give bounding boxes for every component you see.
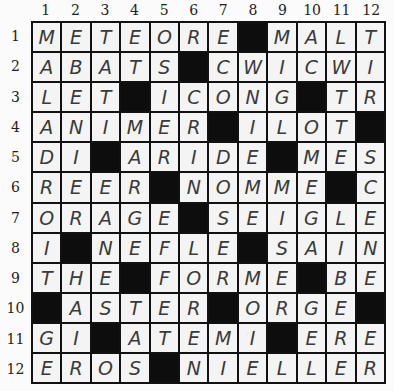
letter-cell[interactable]: I [62, 324, 89, 352]
letter-cell[interactable]: M [209, 324, 236, 352]
letter-cell[interactable]: E [209, 23, 236, 51]
letter-cell[interactable]: L [268, 354, 295, 382]
letter-cell[interactable]: A [121, 324, 148, 352]
letter-cell[interactable]: N [239, 83, 266, 111]
letter-cell[interactable]: S [92, 294, 119, 322]
letter-cell[interactable]: I [92, 113, 119, 141]
letter-cell[interactable]: R [180, 113, 207, 141]
letter-cell[interactable]: R [33, 173, 60, 201]
letter-cell[interactable]: L [327, 204, 354, 232]
letter-cell[interactable]: N [180, 354, 207, 382]
letter-cell[interactable]: O [209, 83, 236, 111]
letter-cell[interactable]: A [298, 234, 325, 262]
letter-cell[interactable]: T [121, 294, 148, 322]
letter-cell[interactable]: G [298, 204, 325, 232]
letter-cell[interactable]: T [327, 83, 354, 111]
letter-cell[interactable]: T [327, 113, 354, 141]
letter-cell[interactable]: S [209, 204, 236, 232]
letter-cell[interactable]: M [33, 23, 60, 51]
letter-cell[interactable]: S [151, 53, 178, 81]
letter-cell[interactable]: I [268, 53, 295, 81]
letter-cell[interactable]: M [121, 113, 148, 141]
letter-cell[interactable]: M [298, 143, 325, 171]
letter-cell[interactable]: E [151, 294, 178, 322]
letter-cell[interactable]: E [298, 324, 325, 352]
letter-cell[interactable]: F [151, 264, 178, 292]
letter-cell[interactable]: W [327, 53, 354, 81]
letter-cell[interactable]: E [62, 83, 89, 111]
letter-cell[interactable]: R [62, 354, 89, 382]
letter-cell[interactable]: T [151, 324, 178, 352]
letter-cell[interactable]: E [151, 204, 178, 232]
letter-cell[interactable]: T [33, 264, 60, 292]
letter-cell[interactable]: T [92, 23, 119, 51]
letter-cell[interactable]: A [298, 23, 325, 51]
letter-cell[interactable]: S [268, 234, 295, 262]
letter-cell[interactable]: E [209, 234, 236, 262]
letter-cell[interactable]: I [62, 143, 89, 171]
letter-cell[interactable]: R [121, 173, 148, 201]
letter-cell[interactable]: E [92, 173, 119, 201]
letter-cell[interactable]: I [239, 324, 266, 352]
letter-cell[interactable]: M [239, 173, 266, 201]
letter-cell[interactable]: E [239, 354, 266, 382]
letter-cell[interactable]: C [298, 53, 325, 81]
letter-cell[interactable]: I [209, 354, 236, 382]
letter-cell[interactable]: G [33, 324, 60, 352]
letter-cell[interactable]: R [180, 294, 207, 322]
letter-cell[interactable]: L [298, 354, 325, 382]
letter-cell[interactable]: S [357, 143, 384, 171]
letter-cell[interactable]: N [62, 113, 89, 141]
letter-cell[interactable]: E [239, 204, 266, 232]
letter-cell[interactable]: E [239, 143, 266, 171]
letter-cell[interactable]: R [268, 294, 295, 322]
letter-cell[interactable]: E [151, 113, 178, 141]
letter-cell[interactable]: O [298, 113, 325, 141]
letter-cell[interactable]: A [62, 294, 89, 322]
letter-cell[interactable]: T [92, 83, 119, 111]
letter-cell[interactable]: A [33, 113, 60, 141]
letter-cell[interactable]: I [357, 53, 384, 81]
letter-cell[interactable]: W [239, 53, 266, 81]
letter-cell[interactable]: T [357, 23, 384, 51]
letter-cell[interactable]: R [180, 23, 207, 51]
letter-cell[interactable]: L [33, 83, 60, 111]
letter-cell[interactable]: R [62, 204, 89, 232]
letter-cell[interactable]: E [357, 204, 384, 232]
letter-cell[interactable]: M [268, 23, 295, 51]
letter-cell[interactable]: I [327, 234, 354, 262]
letter-cell[interactable]: E [180, 324, 207, 352]
letter-cell[interactable]: E [298, 173, 325, 201]
letter-cell[interactable]: E [327, 294, 354, 322]
letter-cell[interactable]: A [33, 53, 60, 81]
letter-cell[interactable]: G [121, 204, 148, 232]
letter-cell[interactable]: I [33, 234, 60, 262]
letter-cell[interactable]: O [151, 23, 178, 51]
letter-cell[interactable]: G [268, 83, 295, 111]
letter-cell[interactable]: E [357, 264, 384, 292]
letter-cell[interactable]: I [180, 143, 207, 171]
letter-cell[interactable]: R [209, 264, 236, 292]
letter-cell[interactable]: L [327, 23, 354, 51]
letter-cell[interactable]: N [180, 173, 207, 201]
letter-cell[interactable]: I [268, 204, 295, 232]
letter-cell[interactable]: C [209, 53, 236, 81]
letter-cell[interactable]: I [151, 83, 178, 111]
letter-cell[interactable]: C [357, 173, 384, 201]
letter-cell[interactable]: A [92, 53, 119, 81]
letter-cell[interactable]: E [62, 173, 89, 201]
letter-cell[interactable]: E [62, 23, 89, 51]
letter-cell[interactable]: O [209, 173, 236, 201]
letter-cell[interactable]: E [33, 354, 60, 382]
letter-cell[interactable]: C [180, 83, 207, 111]
letter-cell[interactable]: B [327, 264, 354, 292]
letter-cell[interactable]: E [268, 264, 295, 292]
letter-cell[interactable]: E [92, 264, 119, 292]
letter-cell[interactable]: E [121, 23, 148, 51]
letter-cell[interactable]: R [357, 354, 384, 382]
letter-cell[interactable]: R [151, 143, 178, 171]
letter-cell[interactable]: H [62, 264, 89, 292]
letter-cell[interactable]: O [92, 354, 119, 382]
letter-cell[interactable]: L [180, 234, 207, 262]
letter-cell[interactable]: B [62, 53, 89, 81]
